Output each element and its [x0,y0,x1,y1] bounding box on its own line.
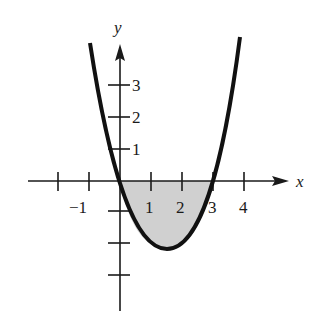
y-axis-label: y [112,18,122,37]
x-tick-label-neg1: −1 [69,198,87,217]
x-tick-label-1: 1 [145,198,154,217]
y-tick-label-2: 2 [132,108,141,127]
x-axis-label: x [295,172,304,191]
x-tick-label-4: 4 [239,198,248,217]
chart-canvas: y x −1 1 2 3 4 3 2 1 [0,0,326,323]
x-tick-label-2: 2 [176,198,185,217]
y-tick-label-1: 1 [132,140,141,159]
y-tick-label-3: 3 [132,76,141,95]
x-tick-label-3: 3 [208,198,217,217]
